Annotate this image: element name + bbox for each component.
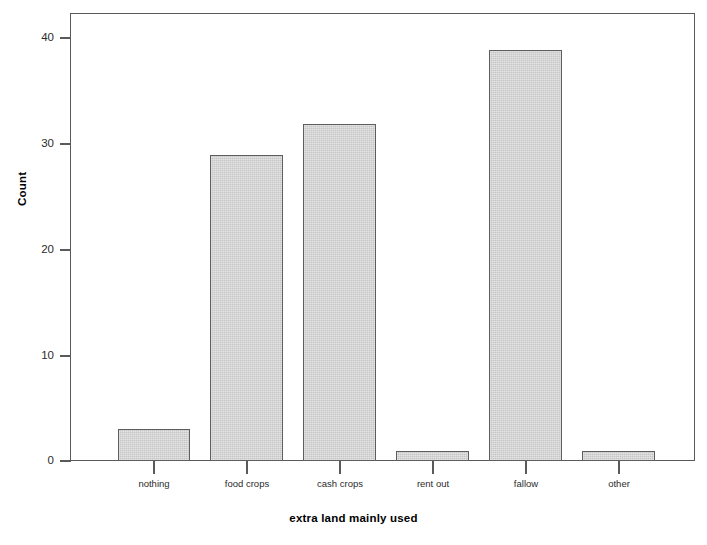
bar-fallow <box>489 50 562 461</box>
y-tick-label-30: 30 <box>28 138 54 149</box>
y-axis-title: Count <box>16 172 28 206</box>
bar-nothing <box>118 429 190 461</box>
bar-rent-out <box>396 451 469 462</box>
x-tick-label-fallow: fallow <box>514 478 538 489</box>
bar-chart: Count 40 30 20 10 0 nothing food crops c… <box>0 0 707 545</box>
x-tick-mark-food-crops <box>246 461 248 474</box>
x-tick-mark-nothing <box>153 461 155 474</box>
x-tick-label-rent-out: rent out <box>417 478 449 489</box>
x-tick-label-nothing: nothing <box>138 478 169 489</box>
x-axis-title: extra land mainly used <box>0 512 707 524</box>
bar-other <box>582 451 655 462</box>
bars-layer <box>70 13 695 461</box>
y-tick-label-20: 20 <box>28 244 54 255</box>
bar-cash-crops <box>303 124 376 461</box>
x-tick-label-food-crops: food crops <box>225 478 269 489</box>
y-tick-label-0: 0 <box>28 455 54 466</box>
x-tick-mark-cash-crops <box>339 461 341 474</box>
x-tick-label-cash-crops: cash crops <box>317 478 363 489</box>
x-tick-label-other: other <box>608 478 630 489</box>
x-tick-mark-fallow <box>525 461 527 474</box>
x-tick-mark-rent-out <box>432 461 434 474</box>
y-tick-label-40: 40 <box>28 32 54 43</box>
x-tick-mark-other <box>618 461 620 474</box>
bar-food-crops <box>210 155 283 461</box>
y-tick-label-10: 10 <box>28 350 54 361</box>
